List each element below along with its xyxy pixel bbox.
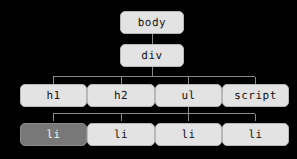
tree-node-h2[interactable]: h2 (87, 84, 155, 107)
tree-node-li3[interactable]: li (155, 123, 222, 146)
tree-node-label: ul (181, 90, 195, 101)
tree-node-h1[interactable]: h1 (20, 84, 87, 107)
tree-node-script[interactable]: script (222, 84, 289, 107)
tree-node-label: h2 (114, 90, 128, 101)
tree-node-ul[interactable]: ul (155, 84, 222, 107)
tree-node-label: h1 (46, 90, 60, 101)
tree-node-label: li (181, 129, 195, 140)
tree-node-body[interactable]: body (120, 11, 184, 34)
tree-node-label: body (138, 17, 167, 28)
tree-node-label: li (248, 129, 262, 140)
tree-node-label: li (114, 129, 128, 140)
tree-node-label: div (141, 50, 162, 61)
tree-node-label: script (234, 90, 277, 101)
tree-node-li1[interactable]: li (20, 123, 87, 146)
tree-node-div[interactable]: div (120, 44, 184, 67)
tree-node-li4[interactable]: li (222, 123, 289, 146)
tree-node-label: li (46, 129, 60, 140)
tree-node-li2[interactable]: li (87, 123, 155, 146)
dom-tree-diagram: bodydivh1h2ulscriptlililili (0, 0, 297, 159)
